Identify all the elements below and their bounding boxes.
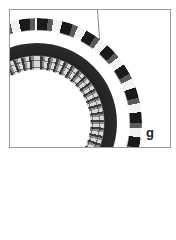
- ring-center-hole: [9, 94, 66, 148]
- panel-label: g: [146, 126, 154, 139]
